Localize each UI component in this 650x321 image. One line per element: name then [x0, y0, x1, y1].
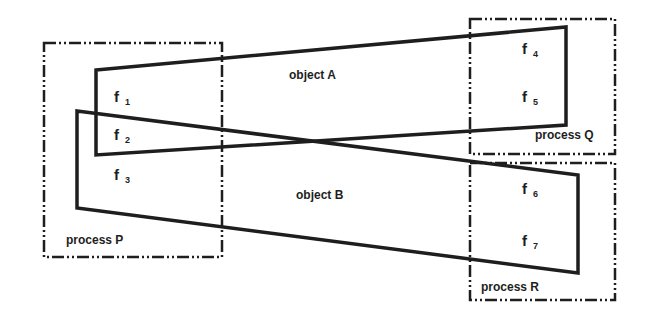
- fragment-base: f: [522, 40, 527, 57]
- process-p-label: process P: [66, 233, 123, 247]
- process-q-label: process Q: [535, 128, 594, 142]
- fragment-subscript: 1: [125, 97, 130, 107]
- fragment-subscript: 7: [533, 241, 538, 251]
- object-a-label: object A: [289, 68, 336, 82]
- fragment-base: f: [522, 180, 527, 197]
- fragment-subscript: 6: [533, 189, 538, 199]
- fragment-subscript: 3: [125, 175, 130, 185]
- fragment-base: f: [114, 166, 119, 183]
- process-r-label: process R: [481, 280, 539, 294]
- fragment-subscript: 2: [125, 135, 130, 145]
- fragment-f1-label: f1: [114, 88, 130, 105]
- fragment-base: f: [522, 88, 527, 105]
- object-b-label: object B: [296, 188, 343, 202]
- object-a-shape: [96, 27, 566, 155]
- fragment-subscript: 5: [533, 97, 538, 107]
- fragment-f6-label: f6: [522, 180, 538, 197]
- fragment-f5-label: f5: [522, 88, 538, 105]
- fragment-base: f: [522, 232, 527, 249]
- fragment-base: f: [114, 88, 119, 105]
- fragment-f2-label: f2: [114, 126, 130, 143]
- fragment-base: f: [114, 126, 119, 143]
- fragment-subscript: 4: [533, 49, 538, 59]
- diagram-canvas: [0, 0, 650, 321]
- fragment-f4-label: f4: [522, 40, 538, 57]
- fragment-f7-label: f7: [522, 232, 538, 249]
- fragment-f3-label: f3: [114, 166, 130, 183]
